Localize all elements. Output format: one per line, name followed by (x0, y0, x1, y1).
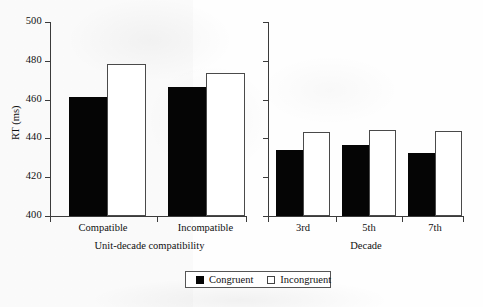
y-tick-label-480: 480 (12, 54, 42, 65)
bar-compatible-incongruent (107, 64, 146, 216)
bar-compatible-congruent (69, 97, 107, 216)
right-y-tick-440 (263, 138, 268, 139)
y-tick-label-500: 500 (12, 15, 42, 26)
legend-item-incongruent: Incongruent (267, 274, 331, 285)
left-category-label-compatible: Compatible (58, 222, 148, 233)
right-y-tick-480 (263, 61, 268, 62)
left-panel-baseline (50, 216, 247, 217)
y-tick-460 (45, 100, 50, 101)
bar-5th-incongruent (369, 130, 396, 216)
right-y-tick-500 (263, 22, 268, 23)
open-square-icon (267, 276, 275, 284)
right-panel-baseline (268, 216, 464, 217)
filled-square-icon (196, 276, 204, 284)
y-tick-label-400: 400 (12, 209, 42, 220)
bar-incompatible-incongruent (206, 73, 245, 216)
bar-7th-congruent (408, 153, 435, 216)
y-tick-label-420: 420 (12, 170, 42, 181)
right-category-label-5th: 5th (339, 222, 399, 233)
y-tick-label-460: 460 (12, 93, 42, 104)
legend-item-congruent: Congruent (196, 274, 253, 285)
legend-label-incongruent: Incongruent (280, 274, 331, 285)
right-category-label-7th: 7th (405, 222, 465, 233)
right-x-tick-2 (402, 217, 403, 222)
chart-legend: Congruent Incongruent (185, 271, 331, 288)
right-x-axis-title: Decade (268, 240, 464, 251)
bar-incompatible-congruent (168, 87, 206, 216)
y-tick-500 (45, 22, 50, 23)
bar-3rd-congruent (276, 150, 303, 216)
left-x-axis-title: Unit-decade compatibility (52, 240, 247, 251)
left-x-tick-start (50, 217, 51, 222)
legend-label-congruent: Congruent (209, 274, 253, 285)
right-x-tick-1 (336, 217, 337, 222)
right-category-label-3rd: 3rd (273, 222, 333, 233)
y-axis-line (50, 22, 51, 217)
left-category-label-incompatible: Incompatible (158, 222, 253, 233)
right-y-axis-line (268, 22, 269, 217)
figure-canvas: 500 480 460 440 420 400 RT (ms) Compatib… (0, 0, 483, 307)
y-tick-480 (45, 61, 50, 62)
right-x-tick-start (268, 217, 269, 222)
bar-5th-congruent (342, 145, 369, 216)
right-y-tick-460 (263, 100, 268, 101)
y-tick-420 (45, 177, 50, 178)
bar-7th-incongruent (435, 131, 462, 216)
y-axis-title: RT (ms) (10, 106, 21, 140)
bar-3rd-incongruent (303, 132, 330, 216)
y-tick-440 (45, 138, 50, 139)
right-y-tick-420 (263, 177, 268, 178)
